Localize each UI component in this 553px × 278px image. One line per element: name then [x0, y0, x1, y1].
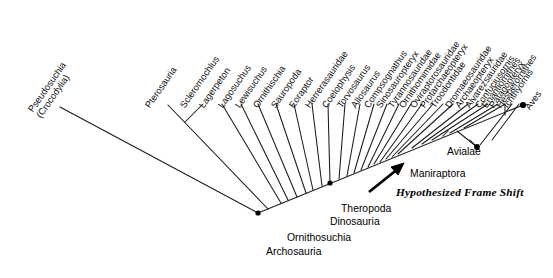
branch-herrerasauridae [328, 104, 330, 183]
node-label-theropoda: Theropoda [341, 203, 391, 214]
frame-shift-annotation: Hypothesized Frame Shift [396, 186, 524, 198]
branch-ornithischia [276, 104, 306, 193]
node-label-archosauria: Archosauria [266, 246, 321, 257]
branch-pseudosuchia [60, 107, 258, 213]
branch-dromaeosauridae [412, 104, 468, 148]
node-label-dinosauria: Dinosauria [330, 216, 380, 227]
branch-eoraptor [312, 104, 322, 186]
branch-sauropoda [294, 104, 313, 190]
branch-coelophysis [339, 104, 345, 179]
branch-lagerpeton [222, 104, 281, 203]
node-label-maniraptora: Maniraptora [410, 168, 465, 179]
node-dot-theropoda [327, 180, 332, 185]
node-label-avialae: Avialae [447, 146, 481, 157]
node-dot-archosauria [255, 210, 260, 215]
cladogram-canvas [0, 0, 553, 278]
branch-torvosaurus [347, 104, 360, 176]
branch-patagopteryx-line [480, 104, 512, 145]
node-label-ornithosuchia: Ornithosuchia [287, 232, 351, 243]
branch-protarchaeopteryx [392, 104, 443, 157]
cladogram-figure: Pseudosuchia (Crocodylia) Pterosauria Sc… [0, 0, 553, 278]
branch-tyrannosauridae [374, 104, 411, 164]
